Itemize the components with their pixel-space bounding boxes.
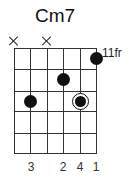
finger-dot-string6-fret1: [90, 52, 103, 65]
muted-string-3-icon: [42, 36, 52, 46]
chord-name: Cm7: [0, 5, 110, 27]
root-note-inner-dot: [75, 96, 86, 107]
string-line-1: [14, 48, 15, 154]
root-note-dot-string5-fret3: [72, 93, 89, 110]
string-line-4: [63, 48, 64, 154]
finger-label-string2: 3: [25, 160, 37, 174]
fret-line-0: [14, 48, 97, 49]
base-fret-label: 11fr: [102, 46, 122, 60]
finger-label-string6: 1: [90, 160, 102, 174]
fret-line-4: [14, 133, 97, 134]
finger-dot-string4-fret2: [57, 73, 70, 86]
finger-dot-string2-fret3: [24, 95, 37, 108]
finger-label-string4: 2: [57, 160, 69, 174]
fret-line-3: [14, 111, 97, 112]
fret-line-5: [14, 153, 97, 154]
fret-line-2: [14, 91, 97, 92]
muted-string-1-icon: [9, 36, 19, 46]
string-line-3: [47, 48, 48, 154]
finger-label-string5: 4: [74, 160, 86, 174]
fret-line-1: [14, 69, 97, 70]
